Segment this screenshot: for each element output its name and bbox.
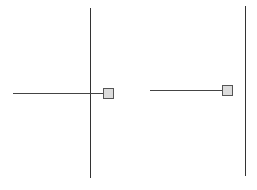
diagram-canvas	[0, 0, 257, 190]
left-drag-handle[interactable]	[103, 88, 114, 99]
left-horizontal-line	[13, 93, 103, 94]
right-horizontal-line	[150, 90, 222, 91]
right-drag-handle[interactable]	[222, 85, 233, 96]
right-vertical-line	[245, 6, 246, 176]
